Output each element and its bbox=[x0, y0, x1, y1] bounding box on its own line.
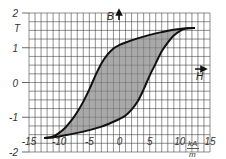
y-tick-label: 0 bbox=[12, 78, 18, 89]
x-unit-numerator: kA bbox=[188, 139, 197, 148]
x-tick-label: -10 bbox=[52, 136, 67, 147]
grid-overlay bbox=[29, 13, 210, 152]
y-tick-label: -1 bbox=[9, 112, 18, 123]
y-tick-label: 1 bbox=[12, 43, 18, 54]
y-tick-label: 2 bbox=[11, 8, 18, 19]
x-tick-label: 0 bbox=[117, 136, 123, 147]
hysteresis-chart: -2-1012 -15-10-5051015 T B H kA m bbox=[0, 0, 226, 159]
x-tick-label: 5 bbox=[147, 136, 153, 147]
y-tick-label: -2 bbox=[9, 147, 18, 158]
x-tick-label: 15 bbox=[204, 136, 216, 147]
x-unit-denominator: m bbox=[189, 150, 196, 159]
b-axis-label: B bbox=[107, 11, 114, 22]
up-arrow-icon bbox=[117, 10, 122, 20]
x-unit-label: kA m bbox=[187, 139, 199, 159]
x-tick-label: -15 bbox=[22, 136, 37, 147]
h-axis-label: H bbox=[196, 71, 204, 82]
x-tick-label: -5 bbox=[85, 136, 94, 147]
h-axis-marker: H bbox=[195, 67, 206, 83]
y-unit-label: T bbox=[14, 23, 21, 34]
x-tick-label: 10 bbox=[174, 136, 186, 147]
